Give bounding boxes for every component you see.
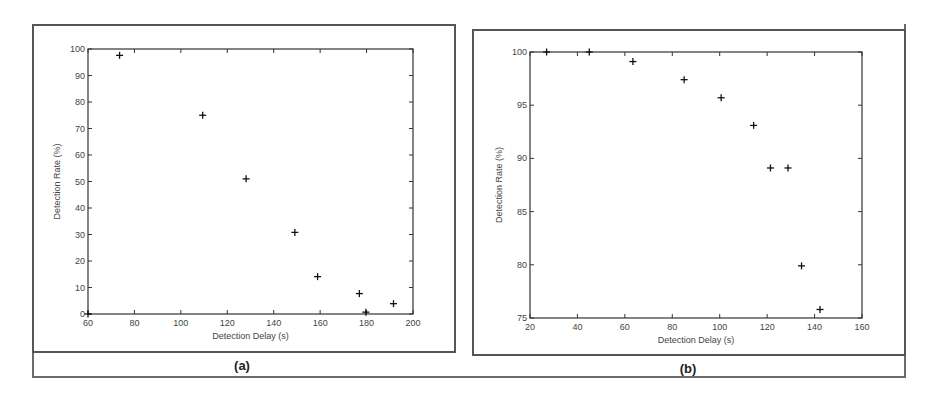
- plot-area: [530, 52, 862, 318]
- y-tick-label: 70: [75, 124, 85, 134]
- y-tick-label: 100: [70, 44, 85, 54]
- caption-b: (b): [680, 361, 697, 376]
- plot-area: [88, 49, 413, 314]
- y-tick-label: 90: [517, 153, 527, 163]
- x-tick-label: 120: [760, 322, 775, 332]
- x-tick-label: 40: [572, 322, 582, 332]
- panel-b: 204060801001201401607580859095100Detecti…: [472, 29, 906, 356]
- y-tick-label: 60: [75, 150, 85, 160]
- panel-a: 6080100120140160180200010203040506070809…: [32, 24, 456, 353]
- x-tick-label: 100: [173, 318, 188, 328]
- y-tick-label: 50: [75, 177, 85, 187]
- x-tick-label: 160: [313, 318, 328, 328]
- x-tick-label: 120: [220, 318, 235, 328]
- y-tick-label: 85: [517, 207, 527, 217]
- x-tick-label: 140: [266, 318, 281, 328]
- y-tick-label: 0: [80, 309, 85, 319]
- y-tick-label: 40: [75, 203, 85, 213]
- y-tick-label: 80: [75, 97, 85, 107]
- x-tick-label: 160: [854, 322, 869, 332]
- y-tick-label: 20: [75, 256, 85, 266]
- scatter-chart-a: 6080100120140160180200010203040506070809…: [34, 26, 458, 355]
- scatter-chart-b: 204060801001201401607580859095100Detecti…: [474, 31, 908, 358]
- y-axis-label: Detection Rate (%): [52, 143, 62, 219]
- x-tick-label: 140: [807, 322, 822, 332]
- x-tick-label: 100: [712, 322, 727, 332]
- x-tick-label: 60: [620, 322, 630, 332]
- y-tick-label: 10: [75, 283, 85, 293]
- x-tick-label: 180: [359, 318, 374, 328]
- y-axis-label: Detection Rate (%): [494, 147, 504, 223]
- x-tick-label: 80: [667, 322, 677, 332]
- x-tick-label: 200: [405, 318, 420, 328]
- y-tick-label: 80: [517, 260, 527, 270]
- x-axis-label: Detection Delay (s): [658, 335, 735, 345]
- x-tick-label: 60: [83, 318, 93, 328]
- y-tick-label: 90: [75, 71, 85, 81]
- x-tick-label: 20: [525, 322, 535, 332]
- caption-a: (a): [234, 358, 250, 373]
- y-tick-label: 95: [517, 100, 527, 110]
- x-axis-label: Detection Delay (s): [212, 331, 289, 341]
- y-tick-label: 30: [75, 230, 85, 240]
- y-tick-label: 100: [512, 47, 527, 57]
- y-tick-label: 75: [517, 313, 527, 323]
- x-tick-label: 80: [129, 318, 139, 328]
